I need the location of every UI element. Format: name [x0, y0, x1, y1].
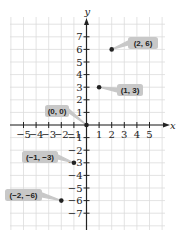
- data-point-icon: [97, 85, 102, 90]
- callout-pointer: [42, 193, 61, 201]
- point-label: (−1, −3): [26, 153, 54, 162]
- x-tick-label: 2: [109, 129, 115, 140]
- callout-pointer: [112, 41, 128, 49]
- point-label: (−2, −6): [9, 191, 37, 200]
- data-point-icon: [84, 123, 89, 128]
- y-tick-label: −1: [68, 132, 83, 143]
- x-axis-label: x: [170, 120, 176, 131]
- y-tick-label: 7: [76, 31, 82, 42]
- coordinate-plot: −5−4−3−2−1123457654321−1−2−3−4−5−6−7 (2,…: [0, 0, 177, 242]
- x-tick-label: 3: [121, 129, 127, 140]
- y-tick-label: 4: [76, 69, 82, 80]
- point-label: (2, 6): [134, 39, 153, 48]
- y-axis-label: y: [84, 6, 91, 17]
- y-tick-label: 3: [76, 82, 82, 93]
- y-tick-label: 6: [76, 44, 82, 55]
- data-point-icon: [59, 198, 64, 203]
- x-tick-label: 1: [96, 129, 102, 140]
- callout-pointer: [99, 87, 117, 92]
- y-tick-label: −2: [68, 145, 83, 156]
- y-tick-label: −7: [68, 208, 83, 219]
- x-axis-arrow-icon: [163, 123, 170, 128]
- y-tick-label: −4: [68, 170, 83, 181]
- data-point-icon: [72, 161, 77, 166]
- y-tick-label: 5: [76, 57, 82, 68]
- x-tick-label: 4: [134, 129, 140, 140]
- x-tick-label: 5: [146, 129, 152, 140]
- y-axis-arrow-icon: [84, 18, 89, 25]
- point-label: (0, 0): [48, 107, 67, 116]
- data-point-icon: [109, 47, 114, 52]
- point-label: (1, 3): [121, 86, 140, 95]
- y-tick-label: 2: [76, 94, 82, 105]
- y-tick-label: −5: [68, 183, 83, 194]
- y-tick-label: −6: [68, 195, 83, 206]
